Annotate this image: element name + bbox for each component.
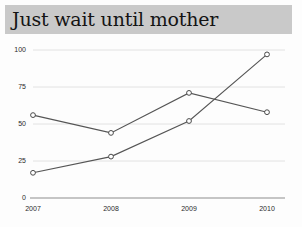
page-title: Just wait until mother bbox=[12, 6, 218, 33]
y-tick-100: 100 bbox=[4, 46, 26, 54]
y-tick-0: 0 bbox=[4, 194, 26, 202]
x-tick-2008: 2008 bbox=[91, 205, 131, 213]
y-tick-50: 50 bbox=[4, 120, 26, 128]
x-tick-2010: 2010 bbox=[247, 205, 287, 213]
y-tick-75: 75 bbox=[4, 83, 26, 91]
series-1-line bbox=[33, 93, 267, 133]
chart-page: Just wait until mother 100 75 50 25 0 20… bbox=[0, 0, 302, 227]
line-chart: 100 75 50 25 0 2007 2008 2009 2010 bbox=[0, 34, 302, 227]
series-2-line bbox=[33, 54, 267, 172]
title-banner: Just wait until mother bbox=[5, 5, 292, 34]
x-tick-2009: 2009 bbox=[169, 205, 209, 213]
series-2-markers bbox=[31, 52, 270, 175]
plot-canvas bbox=[0, 34, 302, 227]
x-tick-2007: 2007 bbox=[13, 205, 53, 213]
y-tick-25: 25 bbox=[4, 157, 26, 165]
gridlines bbox=[33, 50, 285, 161]
